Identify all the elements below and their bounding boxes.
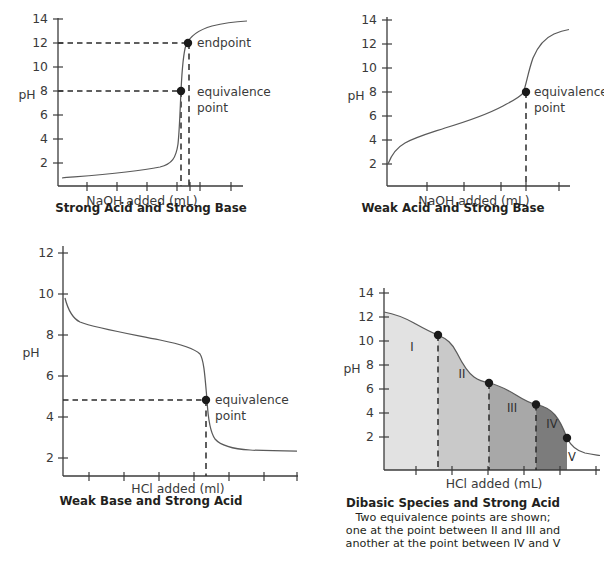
y-tick-label: 4 — [369, 132, 377, 147]
region-I-area — [384, 312, 438, 470]
y-tick-label: 10 — [361, 60, 377, 75]
equivalence-point-marker — [177, 87, 185, 95]
y-tick-label: 12 — [38, 245, 54, 260]
y-tick-label: 12 — [358, 309, 374, 324]
region-label-V: V — [568, 450, 576, 464]
y-tick-label: 8 — [46, 327, 54, 342]
equivalence-point-label-2: point — [534, 101, 565, 115]
titration-curve — [65, 298, 297, 451]
y-tick-label: 14 — [361, 12, 377, 27]
y-tick-label: 2 — [40, 155, 48, 170]
y-tick-label: 8 — [40, 83, 48, 98]
y-tick-label: 12 — [32, 35, 48, 50]
y-tick-label: 4 — [46, 409, 54, 424]
equivalence-point-marker-1 — [485, 379, 493, 387]
y-tick-label: 6 — [46, 368, 54, 383]
y-tick-label: 2 — [366, 429, 374, 444]
region-IV-area — [536, 405, 567, 471]
y-tick-label: 6 — [369, 108, 377, 123]
chart-dibasic-species-strong-acid: 14 12 10 8 6 4 2 pH — [302, 232, 604, 497]
region-III-area — [489, 383, 536, 470]
point-marker-1 — [434, 331, 442, 339]
region-label-III: III — [507, 401, 517, 415]
equivalence-point-label-2: point — [197, 101, 228, 115]
y-axis-title: pH — [18, 87, 35, 102]
panel-weak-base-strong-acid: 12 10 8 6 4 2 pH equivalence — [0, 232, 302, 502]
equivalence-point-marker-2 — [563, 434, 571, 442]
y-axis-title: pH — [343, 361, 360, 376]
y-tick-label: 4 — [366, 405, 374, 420]
y-tick-label: 14 — [358, 285, 374, 300]
panel-title: Strong Acid and Strong Base — [0, 202, 302, 216]
chart-weak-acid-strong-base: 14 12 10 8 6 4 2 pH equivalence poi — [302, 0, 604, 200]
region-label-I: I — [410, 340, 413, 354]
y-tick-label: 6 — [40, 107, 48, 122]
y-tick-label: 8 — [366, 357, 374, 372]
panel-note-line-3: another at the point between IV and V — [302, 537, 604, 550]
y-tick-label: 2 — [369, 156, 377, 171]
point-marker-3 — [532, 400, 540, 408]
y-tick-label: 10 — [358, 333, 374, 348]
panel-note-line-2: one at the point between II and III and — [302, 524, 604, 537]
y-axis-title: pH — [22, 345, 39, 360]
species-regions — [384, 312, 567, 470]
equivalence-point-label-2: point — [215, 409, 246, 423]
y-tick-label: 12 — [361, 36, 377, 51]
equivalence-point-label: equivalence — [534, 85, 604, 99]
y-tick-label: 6 — [366, 381, 374, 396]
region-label-IV: IV — [546, 417, 557, 431]
y-tick-label: 4 — [40, 131, 48, 146]
panel-title: Weak Acid and Strong Base — [302, 202, 604, 216]
equivalence-point-marker — [202, 396, 210, 404]
panel-strong-acid-strong-base: 14 12 10 8 6 4 2 pH — [0, 0, 302, 228]
panel-weak-acid-strong-base: 14 12 10 8 6 4 2 pH equivalence poi — [302, 0, 604, 228]
y-axis-title: pH — [347, 88, 364, 103]
chart-weak-base-strong-acid: 12 10 8 6 4 2 pH equivalence — [0, 232, 302, 476]
endpoint-marker — [184, 39, 192, 47]
y-tick-label: 8 — [369, 84, 377, 99]
panel-dibasic-species-strong-acid: 14 12 10 8 6 4 2 pH — [302, 232, 604, 572]
equivalence-point-marker — [522, 88, 530, 96]
y-tick-label: 14 — [32, 11, 48, 26]
panel-note-line-1: Two equivalence points are shown; — [302, 511, 604, 524]
y-tick-label: 10 — [32, 59, 48, 74]
region-label-II: II — [459, 367, 466, 381]
endpoint-label: endpoint — [197, 36, 251, 50]
y-tick-label: 2 — [46, 450, 54, 465]
y-tick-label: 10 — [38, 286, 54, 301]
equivalence-point-label: equivalence — [197, 85, 271, 99]
panel-title: Weak Base and Strong Acid — [0, 495, 302, 509]
equivalence-point-label: equivalence — [215, 393, 289, 407]
region-II-area — [438, 335, 489, 470]
x-axis-title: HCl added (mL) — [446, 476, 543, 491]
chart-strong-acid-strong-base: 14 12 10 8 6 4 2 pH — [0, 0, 302, 200]
panel-title: Dibasic Species and Strong Acid — [302, 497, 604, 511]
